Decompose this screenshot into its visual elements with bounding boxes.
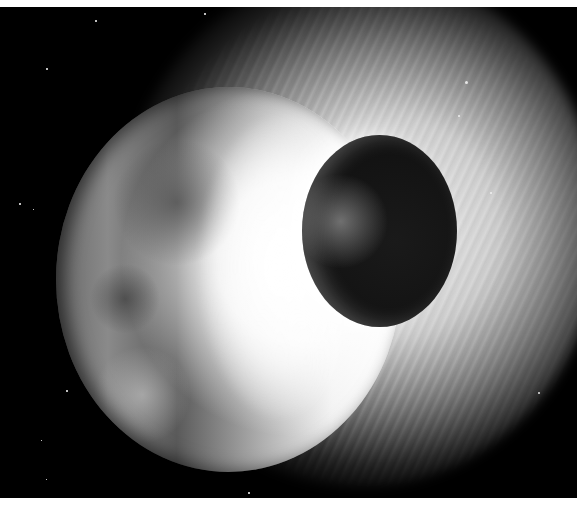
star bbox=[248, 492, 250, 494]
star bbox=[33, 209, 34, 210]
impactor-body bbox=[302, 135, 457, 327]
star bbox=[46, 68, 48, 70]
star bbox=[41, 440, 42, 441]
artwork-frame bbox=[0, 7, 577, 498]
star bbox=[66, 390, 68, 392]
star bbox=[46, 479, 47, 480]
star bbox=[95, 20, 97, 22]
star bbox=[19, 203, 21, 205]
star bbox=[204, 13, 206, 15]
